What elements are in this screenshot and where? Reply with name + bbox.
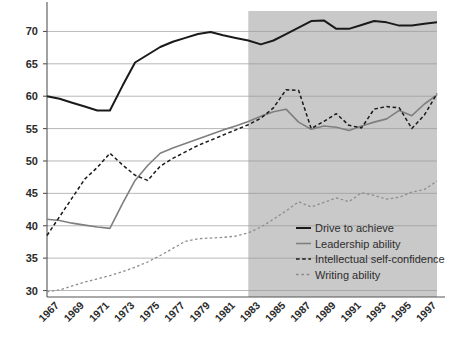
x-tick-label: 1973: [111, 299, 136, 324]
x-tick-label: 1985: [262, 299, 287, 324]
x-tick-label: 1995: [388, 299, 413, 324]
x-tick-label: 1971: [86, 299, 111, 324]
y-tick-label: 30: [26, 285, 38, 297]
x-tick-label: 1997: [413, 299, 438, 324]
x-tick-label: 1977: [162, 299, 187, 324]
x-tick-label: 1993: [363, 299, 388, 324]
x-tick-label: 1981: [212, 299, 237, 324]
x-tick-label: 1983: [237, 299, 262, 324]
y-tick-label: 55: [26, 123, 38, 135]
y-tick-labels: 303540455055606570: [26, 25, 38, 296]
y-tick-label: 40: [26, 220, 38, 232]
y-tick-label: 45: [26, 187, 38, 199]
x-tick-label: 1975: [137, 299, 162, 324]
legend-label-drive: Drive to achieve: [315, 222, 394, 234]
x-tick-label: 1991: [338, 299, 363, 324]
chart-container: 303540455055606570 196719691971197319751…: [0, 0, 450, 347]
y-tick-label: 65: [26, 58, 38, 70]
y-tick-label: 70: [26, 25, 38, 37]
x-tick-label: 1979: [187, 299, 212, 324]
x-tick-label: 1969: [61, 299, 86, 324]
x-tick-labels: 1967196919711973197519771979198119831985…: [36, 299, 439, 324]
y-axis: [43, 2, 47, 297]
x-tick-label: 1987: [288, 299, 313, 324]
y-tick-label: 50: [26, 155, 38, 167]
x-tick-label: 1989: [313, 299, 338, 324]
y-tick-label: 35: [26, 252, 38, 264]
legend-label-leadership: Leadership ability: [315, 238, 401, 250]
x-tick-label: 1967: [36, 299, 61, 324]
line-chart: 303540455055606570 196719691971197319751…: [0, 0, 450, 347]
legend-label-writing: Writing ability: [315, 269, 381, 281]
legend-label-intellectual: Intellectual self-confidence: [315, 253, 445, 265]
y-tick-label: 60: [26, 90, 38, 102]
